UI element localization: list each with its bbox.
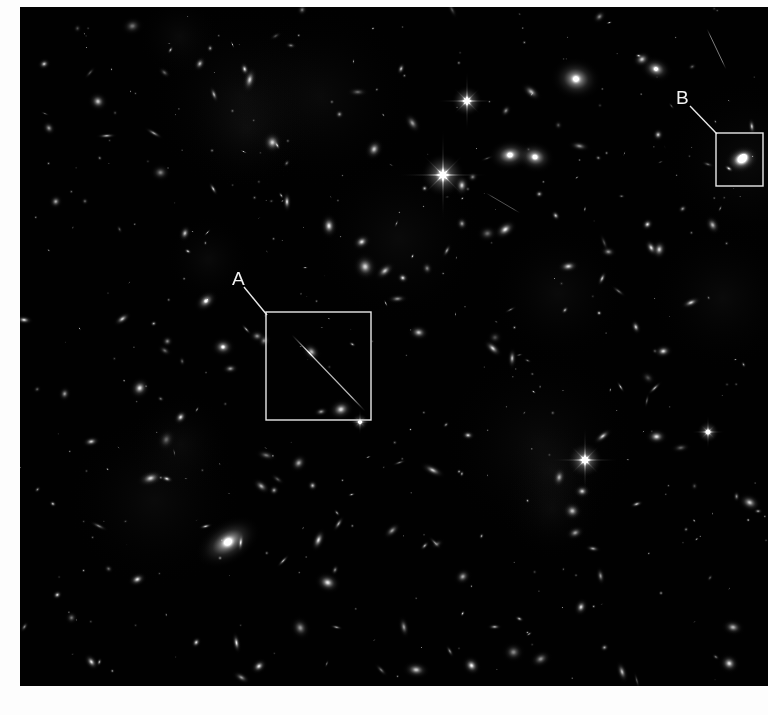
- screenshot-root: AB: [0, 0, 768, 715]
- deep-field-image: AB: [20, 7, 768, 686]
- starfield-canvas: [20, 7, 768, 686]
